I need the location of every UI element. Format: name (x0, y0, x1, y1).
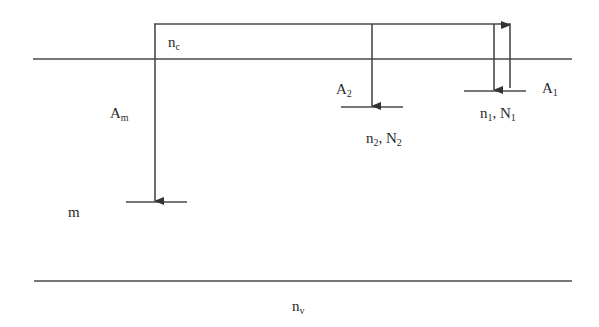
label-n-c: nc (168, 35, 180, 52)
label-A-m: Am (110, 106, 129, 123)
label-m: m (68, 205, 80, 220)
label-n1-N1: n1, N1 (480, 106, 516, 123)
label-A-1: A1 (542, 81, 558, 98)
energy-diagram-canvas (0, 0, 599, 327)
label-n2-N2: n2, N2 (366, 131, 402, 148)
label-n-v: nv (292, 299, 305, 316)
label-A-2: A2 (336, 82, 352, 99)
